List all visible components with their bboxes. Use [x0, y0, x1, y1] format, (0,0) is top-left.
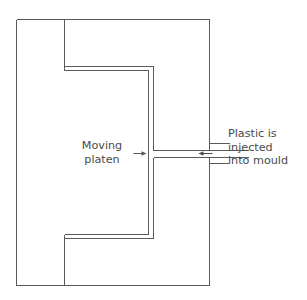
moving-platen-label: Moving platen: [74, 139, 130, 166]
injection-arrow-head: [199, 151, 204, 156]
mould-outline-group: [17, 20, 249, 286]
moving-platen-leader-arrow: [134, 151, 147, 156]
plastic-injected-label: Plastic is injected into mould: [228, 127, 288, 168]
moving-platen-label-line-1: Moving: [74, 139, 130, 153]
plastic-injected-label-line-1: Plastic is: [228, 127, 288, 141]
moving-platen-label-line-2: platen: [74, 153, 130, 167]
moving-platen-arrow-head: [142, 151, 147, 156]
injection-flow-arrow: [199, 151, 213, 156]
plastic-injected-label-line-3: into mould: [228, 154, 288, 168]
plastic-injected-label-line-2: injected: [228, 141, 288, 155]
injection-moulding-diagram: Moving platen Plastic is injected into m…: [0, 0, 307, 300]
